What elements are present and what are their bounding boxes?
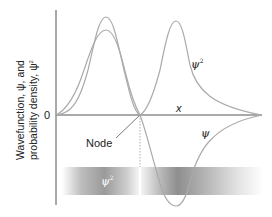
zero-label: 0 <box>44 109 50 121</box>
node-label: Node <box>86 137 112 149</box>
psi-squared-curve <box>56 17 262 115</box>
psi-label: ψ <box>201 127 210 140</box>
y-axis-label-line2: probability density, ψ2 <box>27 59 39 160</box>
psi-squared-label: ψ2 <box>191 57 204 71</box>
x-axis-label: x <box>175 102 182 114</box>
y-axis-label: Wavefunction, ψ, and probability density… <box>14 59 39 160</box>
wavefunction-diagram: 0 x Node ψ ψ2 ψ2 Wavefunction, ψ, and pr… <box>0 0 272 217</box>
y-axis-label-line1: Wavefunction, ψ, and <box>14 60 26 160</box>
node-pointer <box>116 115 140 138</box>
